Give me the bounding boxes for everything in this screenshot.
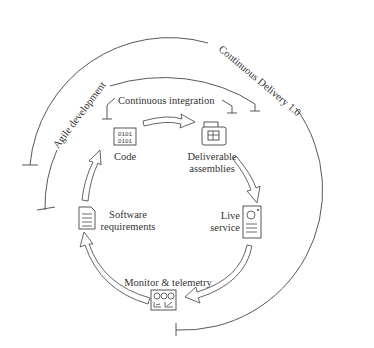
live-label-1: Live bbox=[221, 210, 241, 221]
live-label-2: service bbox=[210, 222, 240, 233]
arrow-monitor-to-requirements bbox=[80, 232, 150, 304]
agile-development-arc-lower bbox=[45, 150, 57, 210]
arc-end-tick bbox=[37, 207, 55, 210]
requirements-label-2: requirements bbox=[101, 221, 156, 232]
dashboard-gauges-icon bbox=[151, 290, 176, 310]
arrow-live-to-monitor bbox=[185, 245, 252, 303]
continuous-delivery-label: Continuous Delivery 1.0 bbox=[217, 43, 303, 118]
agile-development-label: Agile development bbox=[51, 79, 108, 150]
deliverable-label-2: assemblies bbox=[189, 163, 235, 174]
arrow-requirements-to-code bbox=[82, 150, 101, 201]
document-icon bbox=[79, 207, 95, 229]
svg-text:0101: 0101 bbox=[118, 138, 133, 145]
arrow-code-to-deliverable bbox=[143, 114, 195, 128]
binary-code-icon: 0101 0101 bbox=[114, 128, 136, 145]
code-label: Code bbox=[114, 151, 137, 162]
deliverable-label-1: Deliverable bbox=[188, 151, 237, 162]
requirements-label-1: Software bbox=[109, 209, 147, 220]
continuous-integration-label: Continuous integration bbox=[118, 95, 215, 106]
svg-text:0101: 0101 bbox=[118, 131, 133, 138]
arrow-deliverable-to-live bbox=[233, 156, 260, 203]
devops-cycle-diagram: Continuous Delivery 1.0 Agile developmen… bbox=[0, 0, 374, 348]
monitor-label: Monitor & telemetry bbox=[124, 277, 212, 288]
server-icon bbox=[243, 206, 261, 238]
package-box-icon bbox=[202, 122, 226, 145]
